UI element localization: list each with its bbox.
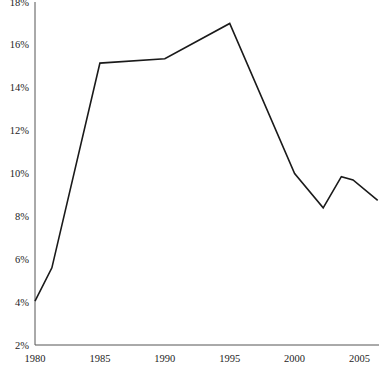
y-tick-label: 4% [15, 297, 29, 308]
y-tick-label: 16% [10, 39, 30, 50]
y-tick-label: 18% [10, 0, 30, 8]
y-tick-label: 12% [10, 125, 30, 136]
x-tick-label: 2000 [284, 353, 305, 364]
y-tick-label: 8% [15, 211, 29, 222]
x-tick-label: 1985 [89, 353, 110, 364]
y-tick-label: 6% [15, 254, 29, 265]
y-tick-label: 10% [10, 168, 30, 179]
line-chart: 2%4%6%8%10%12%14%16%18% 1980198519901995… [0, 0, 381, 378]
chart-canvas: 2%4%6%8%10%12%14%16%18% 1980198519901995… [0, 0, 381, 378]
x-tick-label: 2005 [349, 353, 370, 364]
x-tick-label: 1995 [219, 353, 240, 364]
y-tick-label: 14% [10, 82, 30, 93]
chart-background [0, 0, 381, 378]
y-tick-label: 2% [15, 340, 29, 351]
x-tick-label: 1980 [25, 353, 46, 364]
x-tick-label: 1990 [154, 353, 175, 364]
